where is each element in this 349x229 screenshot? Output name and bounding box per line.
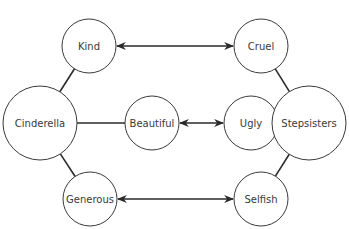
double-bubble-diagram: KindCruelCinderellaBeautifulUglyStepsist… xyxy=(0,0,349,229)
bubble-label: Kind xyxy=(78,41,100,52)
bubble-label: Stepsisters xyxy=(281,118,336,129)
connector-stepsisters-selfish xyxy=(275,154,289,176)
bubble-nodes: KindCruelCinderellaBeautifulUglyStepsist… xyxy=(3,19,346,226)
bubble-label: Beautiful xyxy=(130,118,175,129)
bubble-generous: Generous xyxy=(63,172,117,226)
connector-cinderella-kind xyxy=(60,69,75,92)
bubble-kind: Kind xyxy=(62,19,116,73)
bubble-cruel: Cruel xyxy=(234,19,288,73)
bubble-label: Cinderella xyxy=(15,118,65,129)
bubble-label: Generous xyxy=(66,194,114,205)
bubble-label: Cruel xyxy=(248,41,274,52)
bubble-beautiful: Beautiful xyxy=(125,96,179,150)
bubble-stepsisters: Stepsisters xyxy=(272,86,346,160)
bubble-ugly: Ugly xyxy=(224,96,278,150)
bubble-cinderella: Cinderella xyxy=(3,86,77,160)
connector-stepsisters-cruel xyxy=(275,69,289,92)
bubble-label: Selfish xyxy=(244,194,277,205)
bubble-label: Ugly xyxy=(240,118,262,129)
bubble-selfish: Selfish xyxy=(234,172,288,226)
connector-cinderella-generous xyxy=(60,154,75,177)
